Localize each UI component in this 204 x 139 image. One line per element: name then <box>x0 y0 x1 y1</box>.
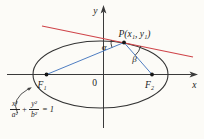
equation-fraction-x: x² a² <box>10 100 20 118</box>
equation-denominator-a: a² <box>12 110 18 119</box>
equation-numerator-y: y² <box>29 100 39 110</box>
point-p-label: P(x₁, y₁) <box>118 29 151 40</box>
focus-2-dot <box>150 73 154 77</box>
segment-p-f1 <box>47 43 125 75</box>
equation-equals-one: = 1 <box>41 105 54 114</box>
origin-label: 0 <box>92 78 97 88</box>
point-p-dot <box>122 41 126 45</box>
equation-denominator-b: b² <box>31 110 37 119</box>
equation-pointer-arrowhead-icon <box>27 87 32 91</box>
equation-fraction-y: y² b² <box>29 100 39 118</box>
equation-numerator-x: x² <box>10 100 20 110</box>
focus-2-label: F₂ <box>144 80 155 90</box>
x-axis-label: x <box>191 80 197 90</box>
equation-plus-operator: + <box>22 105 28 114</box>
ellipse-equation: x² a² + y² b² = 1 <box>10 100 54 118</box>
focus-1-dot <box>45 73 49 77</box>
angle-beta-label: β <box>131 54 137 64</box>
focus-1-label: F₁ <box>37 80 47 90</box>
angle-alpha-label: α <box>102 42 107 52</box>
y-axis-label: y <box>92 6 98 16</box>
ellipse-tangent-foci-diagram: y x 0 P(x₁, y₁) F₁ F₂ α β x² a² + y² b² … <box>0 0 204 139</box>
tangent-line <box>42 26 193 57</box>
